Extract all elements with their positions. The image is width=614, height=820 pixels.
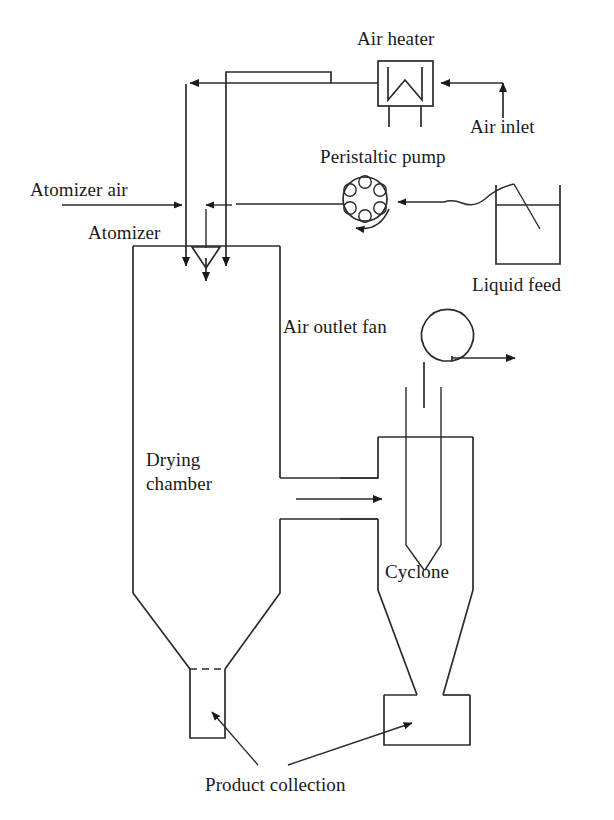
spray-dryer-diagram: Air heater Air inlet Peristaltic pump (0, 0, 614, 820)
liquid-feed-label: Liquid feed (472, 274, 562, 295)
liquid-feed (496, 184, 560, 264)
air-heater-label: Air heater (357, 28, 435, 49)
peristaltic-pump-label: Peristaltic pump (320, 146, 446, 167)
air-heater (378, 61, 433, 127)
heater-element-icon (388, 67, 422, 100)
leader-to-cyclone-box (288, 723, 412, 765)
atomizer-nozzle (192, 209, 220, 281)
cyclone-inlet-top (340, 437, 378, 478)
product-collection-label: Product collection (205, 774, 346, 795)
cyclone-wall-left (378, 519, 417, 695)
air-inlet-label: Air inlet (470, 116, 535, 137)
cyclone-label: Cyclone (385, 561, 449, 582)
drying-chamber-label-line2: chamber (146, 473, 213, 494)
cyclone-box-body (384, 695, 470, 745)
vortex-finder-right (425, 387, 441, 570)
figure-canvas: Air heater Air inlet Peristaltic pump (0, 0, 614, 820)
cyclone (340, 387, 473, 695)
hot-air-branch-top (226, 72, 331, 83)
chamber-jar-body (190, 669, 225, 738)
atomizer-air-label: Atomizer air (30, 179, 128, 200)
air-outlet-fan (422, 309, 516, 408)
fan-housing (422, 309, 474, 361)
atomizer-label: Atomizer (88, 222, 161, 243)
beaker-body (496, 185, 560, 264)
air-heater-box (378, 61, 433, 106)
product-collection-cyclone (384, 695, 470, 745)
hot-air-duct (186, 72, 378, 266)
chamber-wall-right-lower (225, 519, 280, 669)
air-inlet-flow (441, 83, 503, 118)
vortex-finder-left (406, 387, 424, 570)
dip-tube-inside (514, 184, 540, 229)
product-collection-chamber (190, 669, 225, 738)
peristaltic-pump (343, 176, 389, 229)
drying-chamber-label-line1: Drying (146, 449, 201, 470)
air-outlet-fan-label: Air outlet fan (283, 316, 387, 337)
